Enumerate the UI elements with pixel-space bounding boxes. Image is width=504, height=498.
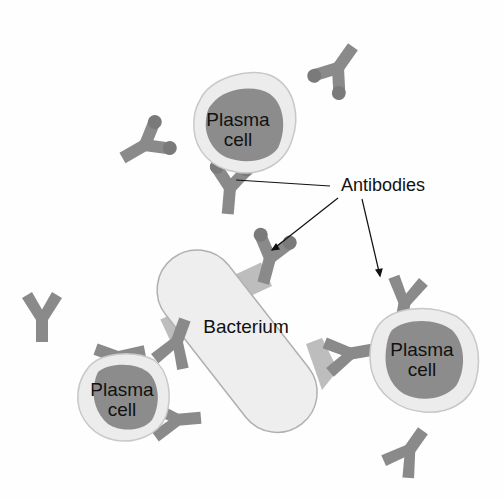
leader-line-top	[236, 180, 330, 186]
plasma-cell-bottom-left-label: Plasma cell	[84, 380, 160, 420]
antibody-top-left	[111, 112, 179, 177]
label-line: Plasma	[382, 340, 462, 360]
diagram-canvas	[0, 0, 504, 498]
antibody-top-right	[304, 34, 370, 103]
label-line: cell	[382, 360, 462, 380]
plasma-cell-right-label: Plasma cell	[382, 340, 462, 380]
leader-line-middle	[272, 198, 338, 250]
antibodies-label: Antibodies	[328, 176, 438, 195]
leader-line-right	[362, 199, 380, 276]
bacterium-label: Bacterium	[194, 317, 298, 337]
label-line: Plasma	[84, 380, 160, 400]
antibody-bottom-right	[378, 419, 439, 483]
antibody-far-left	[22, 292, 62, 342]
antibody-diagram: Plasma cell Plasma cell Plasma cell Bact…	[0, 0, 504, 498]
label-line: cell	[84, 400, 160, 420]
label-line: cell	[198, 130, 278, 150]
label-line: Plasma	[198, 110, 278, 130]
plasma-cell-top-label: Plasma cell	[198, 110, 278, 150]
